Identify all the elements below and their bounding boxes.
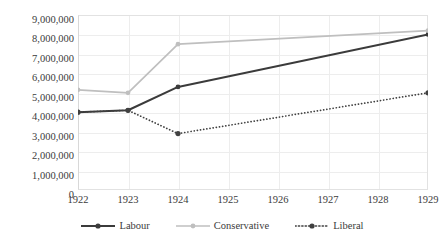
legend-item-conservative: Conservative — [176, 220, 269, 232]
data-point-conservative — [426, 28, 428, 33]
legend-item-liberal: Liberal — [295, 220, 363, 232]
y-tick-label: 5,000,000 — [2, 93, 74, 104]
x-tick-label: 1924 — [168, 194, 189, 206]
series-line-labour — [78, 34, 428, 112]
x-tick-label: 1922 — [68, 194, 89, 206]
data-point-conservative — [126, 90, 131, 95]
x-tick-label: 1928 — [368, 194, 389, 206]
y-tick-label: 8,000,000 — [2, 34, 74, 45]
y-tick-label: 4,000,000 — [2, 112, 74, 123]
data-point-liberal — [175, 131, 180, 136]
legend-line-conservative-icon — [176, 221, 210, 231]
legend-label-labour: Labour — [119, 220, 149, 232]
series-line-conservative — [78, 31, 428, 93]
y-tick-label: 2,000,000 — [2, 151, 74, 162]
y-tick-label: 7,000,000 — [2, 54, 74, 65]
legend-line-labour-icon — [81, 221, 115, 231]
series-layer — [78, 15, 428, 190]
data-point-conservative — [78, 87, 80, 92]
series-line-liberal — [78, 93, 428, 134]
x-tick-label: 1923 — [118, 194, 139, 206]
line-chart: 9,000,000 8,000,000 7,000,000 6,000,000 … — [0, 0, 445, 244]
x-axis: 1922 1923 1924 1925 1926 1927 1928 1929 — [78, 194, 428, 210]
y-tick-label: 1,000,000 — [2, 171, 74, 182]
y-tick-label: 0 — [2, 190, 74, 201]
y-axis: 9,000,000 8,000,000 7,000,000 6,000,000 … — [0, 0, 74, 205]
y-tick-label: 9,000,000 — [2, 15, 74, 26]
data-point-liberal — [125, 108, 130, 113]
legend-label-liberal: Liberal — [333, 220, 363, 232]
y-tick-label: 3,000,000 — [2, 132, 74, 143]
x-tick-label: 1929 — [418, 194, 439, 206]
data-point-labour — [176, 85, 181, 90]
y-tick-label: 6,000,000 — [2, 73, 74, 84]
legend-item-labour: Labour — [81, 220, 149, 232]
x-tick-label: 1926 — [268, 194, 289, 206]
data-point-conservative — [176, 42, 181, 47]
data-point-liberal — [425, 90, 428, 95]
legend-label-conservative: Conservative — [214, 220, 269, 232]
x-tick-label: 1925 — [218, 194, 239, 206]
data-point-liberal — [78, 110, 81, 115]
chart-legend: Labour Conservative Liberal — [0, 216, 445, 236]
legend-line-liberal-icon — [295, 221, 329, 231]
x-tick-label: 1927 — [318, 194, 339, 206]
